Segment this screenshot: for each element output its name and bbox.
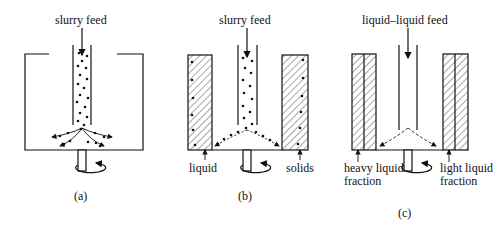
right-wall <box>282 55 308 150</box>
panel-c-heavy-label: heavy liquid fraction <box>344 162 404 188</box>
drive-shaft <box>78 150 86 171</box>
panel-a-caption: (a) <box>74 190 87 203</box>
panel-c <box>352 28 468 173</box>
panel-b-caption: (b) <box>238 190 252 203</box>
panel-b-solids-label: solids <box>286 162 314 175</box>
panel-c-feed-label: liquid–liquid feed <box>362 14 448 27</box>
basket-bowl <box>25 54 143 150</box>
panel-b <box>188 28 308 173</box>
panel-c-light-label: light liquid fraction <box>440 162 500 188</box>
panel-b-feed-label: slurry feed <box>219 14 271 27</box>
left-wall <box>188 55 212 150</box>
panel-c-caption: (c) <box>398 207 411 220</box>
slurry-particles <box>59 52 106 148</box>
panel-a-feed-label: slurry feed <box>55 14 107 27</box>
panel-b-liquid-label: liquid <box>189 162 217 175</box>
panel-a <box>25 28 143 173</box>
